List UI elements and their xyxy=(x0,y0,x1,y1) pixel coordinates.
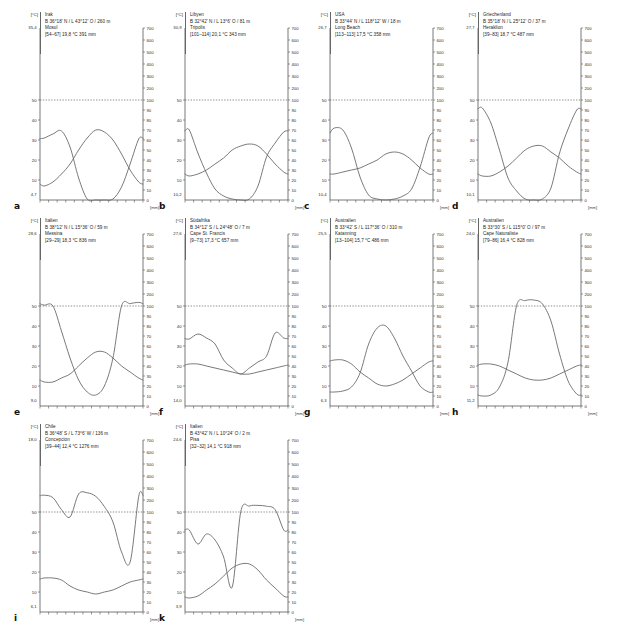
panel-coords: B 33°30' S / L 115°0' O / 97 m xyxy=(483,225,590,232)
svg-text:11,2: 11,2 xyxy=(467,398,476,403)
svg-text:200: 200 xyxy=(437,86,445,91)
panel-letter: d xyxy=(452,201,458,211)
panel-summary: [39–83] 18,7 °C 487 mm xyxy=(483,32,590,39)
panel-header: USAB 33°44' N / L 118°12' W / 18 mLong B… xyxy=(330,12,442,54)
right-axis-unit: [mm] xyxy=(440,411,449,416)
svg-text:40: 40 xyxy=(470,118,475,123)
svg-text:10: 10 xyxy=(177,384,182,389)
svg-text:0: 0 xyxy=(147,610,150,615)
svg-text:10: 10 xyxy=(32,590,37,595)
svg-text:50: 50 xyxy=(322,304,327,309)
svg-text:200: 200 xyxy=(437,292,445,297)
svg-text:40: 40 xyxy=(32,530,37,535)
svg-text:10: 10 xyxy=(470,178,475,183)
svg-text:80: 80 xyxy=(292,530,297,535)
svg-text:25,5: 25,5 xyxy=(318,231,327,236)
svg-text:90: 90 xyxy=(585,314,590,319)
svg-text:50: 50 xyxy=(147,560,152,565)
svg-text:10: 10 xyxy=(32,384,37,389)
left-axis-unit: [°C] xyxy=(14,424,38,430)
climate-diagram-panel: 504030201024,63,910090807060504030201007… xyxy=(157,422,304,622)
svg-text:30: 30 xyxy=(437,374,442,379)
svg-text:20: 20 xyxy=(292,384,297,389)
svg-text:300: 300 xyxy=(585,280,593,285)
svg-text:60: 60 xyxy=(147,550,152,555)
svg-text:100: 100 xyxy=(585,98,593,103)
svg-text:20: 20 xyxy=(292,178,297,183)
svg-text:35,4: 35,4 xyxy=(28,25,37,30)
svg-text:50: 50 xyxy=(585,148,590,153)
svg-text:70: 70 xyxy=(585,128,590,133)
svg-text:0: 0 xyxy=(437,198,440,203)
svg-text:300: 300 xyxy=(292,74,300,79)
panel-coords: B 38°12' N / L 15°36' O / 59 m xyxy=(45,225,152,232)
svg-text:0: 0 xyxy=(585,404,588,409)
panel-coords: B 36°48' S / L 73°6' W / 136 m xyxy=(45,431,152,438)
svg-text:80: 80 xyxy=(437,118,442,123)
svg-text:30: 30 xyxy=(177,344,182,349)
panel-summary: [79–86] 16,4 °C 828 mm xyxy=(483,238,590,245)
panel-letter: a xyxy=(14,201,20,211)
climate-diagram-sheet: 504030201035,44,710090807060504030201007… xyxy=(0,0,622,626)
svg-text:50: 50 xyxy=(177,510,182,515)
svg-text:60: 60 xyxy=(585,344,590,349)
panel-summary: [32–32] 14,1 °C 918 mm xyxy=(190,444,297,451)
panel-header: ItalienB 38°12' N / L 15°36' O / 59 mMes… xyxy=(40,218,152,260)
svg-text:200: 200 xyxy=(585,292,593,297)
svg-text:50: 50 xyxy=(147,354,152,359)
left-axis-unit: [°C] xyxy=(14,12,38,18)
svg-text:200: 200 xyxy=(147,292,155,297)
svg-text:80: 80 xyxy=(585,324,590,329)
panel-header: ChileB 36°48' S / L 73°6' W / 136 mConce… xyxy=(40,424,152,466)
climate-diagram-panel: 504030201018,06,110090807060504030201007… xyxy=(12,422,159,622)
panel-summary: [54–67] 19,8 °C 391 mm xyxy=(45,32,152,39)
svg-text:400: 400 xyxy=(147,62,155,67)
svg-text:40: 40 xyxy=(470,324,475,329)
svg-text:40: 40 xyxy=(147,570,152,575)
panel-station: Tripolis xyxy=(190,25,297,32)
svg-text:40: 40 xyxy=(437,158,442,163)
svg-text:50: 50 xyxy=(585,354,590,359)
svg-text:400: 400 xyxy=(585,268,593,273)
svg-text:100: 100 xyxy=(292,510,300,515)
svg-text:10,4: 10,4 xyxy=(318,192,327,197)
svg-text:10: 10 xyxy=(292,188,297,193)
svg-text:30: 30 xyxy=(177,550,182,555)
left-axis-unit: [°C] xyxy=(14,218,38,224)
svg-text:70: 70 xyxy=(437,334,442,339)
svg-text:20: 20 xyxy=(147,178,152,183)
panel-letter: b xyxy=(159,201,165,211)
svg-text:70: 70 xyxy=(585,334,590,339)
panel-letter: g xyxy=(304,407,310,417)
svg-text:200: 200 xyxy=(292,292,300,297)
svg-text:20: 20 xyxy=(177,570,182,575)
svg-text:30: 30 xyxy=(147,168,152,173)
svg-text:60: 60 xyxy=(437,138,442,143)
svg-text:50: 50 xyxy=(470,98,475,103)
left-axis-unit: [°C] xyxy=(304,12,328,18)
svg-text:70: 70 xyxy=(147,334,152,339)
svg-text:10: 10 xyxy=(177,590,182,595)
svg-text:50: 50 xyxy=(32,304,37,309)
panel-country: USA xyxy=(335,12,442,19)
svg-text:80: 80 xyxy=(292,324,297,329)
svg-text:80: 80 xyxy=(147,118,152,123)
svg-text:20: 20 xyxy=(32,570,37,575)
svg-text:60: 60 xyxy=(292,344,297,349)
panel-country: Italien xyxy=(190,424,297,431)
svg-text:100: 100 xyxy=(147,510,155,515)
panel-letter: c xyxy=(304,201,309,211)
panel-header: AustralienB 33°42' S / L 117°36' O / 310… xyxy=(330,218,442,260)
svg-text:100: 100 xyxy=(147,304,155,309)
svg-text:400: 400 xyxy=(437,62,445,67)
unit-celsius: [°C] xyxy=(159,12,183,18)
svg-text:80: 80 xyxy=(585,118,590,123)
svg-text:400: 400 xyxy=(292,268,300,273)
svg-text:100: 100 xyxy=(585,304,593,309)
svg-text:10: 10 xyxy=(585,394,590,399)
panel-country: Italien xyxy=(45,218,152,225)
panel-letter: h xyxy=(452,407,458,417)
right-axis-unit: [mm] xyxy=(588,205,597,210)
svg-text:50: 50 xyxy=(437,148,442,153)
svg-text:300: 300 xyxy=(437,74,445,79)
